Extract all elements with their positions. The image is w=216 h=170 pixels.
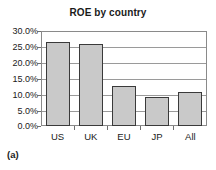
bar-eu[interactable] bbox=[112, 86, 136, 126]
x-axis-label-all: All bbox=[174, 131, 207, 143]
bar-slot-all bbox=[174, 31, 207, 126]
x-axis-tick-3 bbox=[140, 126, 141, 130]
x-axis-tick-1 bbox=[74, 126, 75, 130]
bar-series bbox=[41, 31, 207, 126]
y-axis-label-20: 20.0% bbox=[0, 59, 38, 68]
bar-us[interactable] bbox=[46, 42, 70, 126]
y-axis-label-10: 10.0% bbox=[0, 91, 38, 100]
bar-uk[interactable] bbox=[79, 44, 103, 126]
y-axis-label-0: 0.0% bbox=[0, 122, 38, 131]
figure-caption: (a) bbox=[7, 149, 19, 160]
y-axis-label-15: 15.0% bbox=[0, 75, 38, 84]
chart-title: ROE by country bbox=[0, 7, 216, 19]
x-axis-label-jp: JP bbox=[141, 131, 174, 143]
bar-slot-uk bbox=[74, 31, 107, 126]
bar-all[interactable] bbox=[178, 92, 202, 126]
x-axis-tick-2 bbox=[107, 126, 108, 130]
x-axis-tick-4 bbox=[173, 126, 174, 130]
y-axis-label-5: 5.0% bbox=[0, 107, 38, 116]
y-axis-label-30: 30.0% bbox=[0, 27, 38, 36]
bar-jp[interactable] bbox=[145, 97, 169, 126]
figure-panel: ROE by country 30.0% 25.0% 20.0% 15.0% 1… bbox=[0, 0, 216, 170]
bar-slot-jp bbox=[141, 31, 174, 126]
x-axis-label-eu: EU bbox=[107, 131, 140, 143]
x-axis-ticks bbox=[41, 126, 207, 130]
bar-slot-us bbox=[41, 31, 74, 126]
x-axis-label-us: US bbox=[41, 131, 74, 143]
y-axis-label-25: 25.0% bbox=[0, 43, 38, 52]
x-axis-label-uk: UK bbox=[74, 131, 107, 143]
bar-slot-eu bbox=[107, 31, 140, 126]
x-axis-labels: US UK EU JP All bbox=[41, 131, 207, 143]
